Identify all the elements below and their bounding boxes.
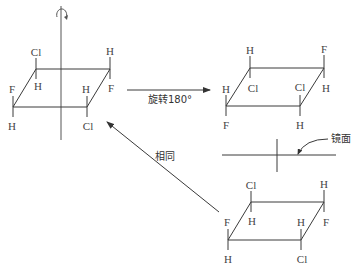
atom-label: Cl [83, 120, 93, 132]
stereochemistry-diagram: Cl H H F F H H Cl 旋转180° H Cl F H H F Cl… [0, 0, 362, 274]
atom-label: H [297, 216, 305, 228]
mirror-plane: 镜面 [222, 132, 351, 172]
atom-label: H [224, 253, 232, 265]
mirror-pointer-arrow-icon [298, 139, 328, 154]
same-arrow: 相同 [107, 122, 219, 212]
ring-plane [228, 202, 324, 240]
atom-label: H [106, 45, 114, 57]
atom-label: H [82, 83, 90, 95]
atom-label: H [322, 82, 330, 94]
atom-label: F [9, 83, 15, 95]
atom-label: H [246, 44, 254, 56]
atom-label: F [323, 216, 329, 228]
atom-label: H [34, 80, 42, 92]
atom-label: Cl [295, 81, 305, 93]
atom-label: H [8, 120, 16, 132]
molecule-rotated: H Cl F H H F Cl H [222, 43, 330, 131]
atom-label: Cl [297, 253, 307, 265]
atom-label: H [296, 119, 304, 131]
atom-label: F [223, 119, 229, 131]
atom-label: H [248, 215, 256, 227]
atom-label: F [321, 43, 327, 55]
ring-plane [226, 68, 324, 106]
atom-label: Cl [246, 179, 256, 191]
mirror-label: 镜面 [331, 132, 351, 144]
molecule-original: Cl H H F F H H Cl [8, 6, 114, 140]
rotation-arrowhead-icon [64, 15, 68, 20]
atom-label: H [222, 83, 230, 95]
rotate-arrow: 旋转180° [127, 90, 210, 105]
atom-label: Cl [31, 46, 41, 58]
atom-label: Cl [248, 82, 258, 94]
rotate-label: 旋转180° [148, 93, 192, 105]
atom-label: F [108, 82, 114, 94]
molecule-mirror-image: Cl H H F F H H Cl [224, 178, 329, 265]
atom-label: H [320, 178, 328, 190]
same-label: 相同 [155, 150, 175, 162]
atom-label: F [224, 216, 230, 228]
